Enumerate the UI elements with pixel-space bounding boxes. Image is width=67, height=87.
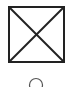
image-placeholder-icon	[8, 6, 65, 63]
radio-circle-icon	[28, 77, 44, 87]
canvas	[0, 0, 67, 87]
image-placeholder[interactable]	[8, 6, 65, 63]
radio-button[interactable]	[28, 77, 44, 87]
